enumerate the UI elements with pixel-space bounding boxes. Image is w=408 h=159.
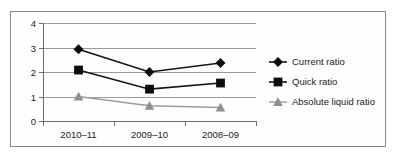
data-point-1-1 [145, 85, 154, 94]
data-point-2-0 [74, 92, 84, 101]
x-tick-label: 2008–09 [202, 129, 239, 140]
x-tick-label: 2010–11 [60, 129, 96, 140]
legend-label-1: Quick ratio [292, 76, 337, 87]
legend-item-1: Quick ratio [269, 76, 337, 87]
x-tick-label: 2009–10 [131, 129, 168, 140]
x-axis-tick-labels: 2010–112009–102008–09 [44, 121, 257, 140]
data-point-1-2 [216, 79, 225, 88]
y-tick-label: 4 [31, 18, 36, 29]
legend-label-0: Current ratio [292, 56, 345, 67]
legend-item-0: Current ratio [269, 56, 345, 67]
data-point-1-0 [74, 66, 83, 75]
y-tick-label: 2 [31, 67, 36, 78]
y-tick-label: 3 [31, 43, 36, 54]
legend-item-2: Absolute liquid ratio [269, 96, 375, 107]
y-tick-label: 1 [31, 92, 36, 103]
legend-label-2: Absolute liquid ratio [292, 96, 375, 107]
chart-container: 01234 2010–112009–102008–09 Current rati… [10, 11, 386, 147]
series-lines [79, 49, 221, 107]
legend-marker-0 [273, 57, 283, 67]
data-point-0-2 [216, 58, 226, 68]
data-point-0-1 [145, 67, 155, 77]
line-chart: 01234 2010–112009–102008–09 Current rati… [11, 12, 387, 148]
chart-legend: Current ratioQuick ratioAbsolute liquid … [269, 56, 375, 107]
y-tick-label: 0 [31, 116, 36, 127]
y-axis-tick-labels: 01234 [31, 18, 43, 127]
legend-marker-1 [274, 78, 283, 87]
data-point-0-0 [74, 44, 84, 54]
